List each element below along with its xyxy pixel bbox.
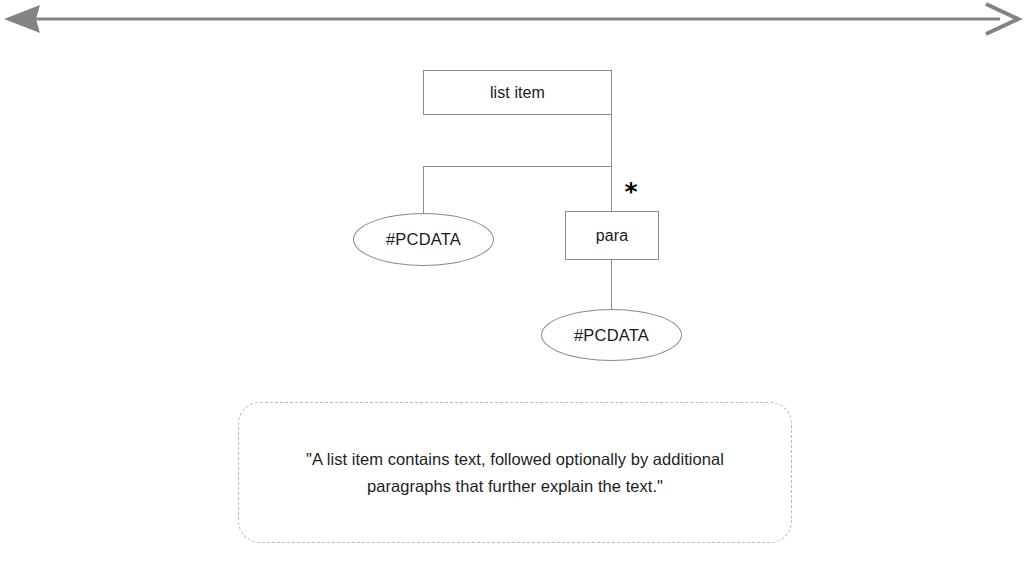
node-pcdata-secondary-label: #PCDATA <box>574 327 649 344</box>
connector-bar-to-para <box>611 166 612 212</box>
horizontal-double-arrow-icon <box>0 0 1026 44</box>
node-list-item[interactable]: list item <box>423 70 612 115</box>
node-para[interactable]: para <box>565 211 659 260</box>
node-pcdata-primary[interactable]: #PCDATA <box>353 213 494 266</box>
node-pcdata-primary-label: #PCDATA <box>386 231 461 248</box>
node-pcdata-secondary[interactable]: #PCDATA <box>541 309 682 361</box>
connector-sibling-bar <box>423 166 612 167</box>
node-para-label: para <box>596 228 628 244</box>
connector-para-to-pcdata <box>611 259 612 312</box>
connector-bar-to-pcdata <box>423 166 424 216</box>
diagram-canvas: list item #PCDATA para #PCDATA * "A list… <box>0 0 1026 561</box>
occurrence-indicator-asterisk: * <box>620 180 642 204</box>
callout-box: "A list item contains text, followed opt… <box>238 402 792 543</box>
callout-text: "A list item contains text, followed opt… <box>275 446 755 499</box>
node-list-item-label: list item <box>490 85 545 101</box>
connector-root-to-bar <box>611 115 612 166</box>
